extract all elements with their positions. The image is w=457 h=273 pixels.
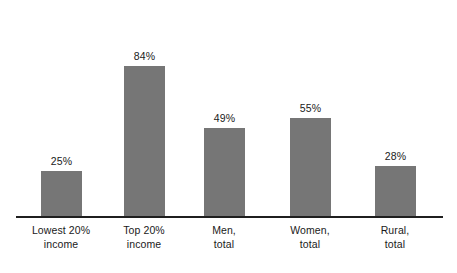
bar-chart: 25% 84% 49% 55% 28% Lowest 20% income (0, 0, 457, 273)
bar-value-label: 84% (134, 50, 155, 62)
bar[interactable] (375, 166, 416, 216)
x-axis-category-labels: Lowest 20% income Top 20% income Men, to… (0, 224, 457, 273)
plot-area: 25% 84% 49% 55% 28% (0, 0, 457, 219)
x-axis-label-line: Rural, (340, 224, 450, 238)
bar-value-label: 28% (385, 150, 406, 162)
x-axis-line (16, 216, 443, 218)
x-axis-label-line: total (340, 238, 450, 252)
bar[interactable] (290, 118, 331, 216)
bar[interactable] (204, 128, 245, 216)
bar-value-label: 49% (214, 112, 235, 124)
bar[interactable] (41, 171, 82, 216)
bar-value-label: 25% (51, 155, 72, 167)
bar[interactable] (124, 66, 165, 216)
x-axis-label: Rural, total (340, 224, 450, 251)
bar-value-label: 55% (300, 102, 321, 114)
